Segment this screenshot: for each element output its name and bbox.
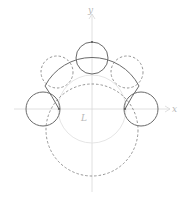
left-inner-arc	[45, 86, 59, 109]
top-contact-point	[91, 41, 93, 43]
y-axis-label: y	[87, 5, 94, 15]
left-contact-point	[58, 108, 60, 110]
upper-left-dashed-circle	[41, 56, 73, 88]
x-axis-label: x	[172, 104, 177, 114]
center-label: L	[80, 113, 87, 123]
circle-packing-diagram: x y L	[0, 0, 185, 200]
right-inner-arc	[125, 86, 139, 109]
right-contact-point	[124, 108, 126, 110]
axes	[14, 14, 170, 192]
upper-right-dashed-circle	[111, 56, 143, 88]
